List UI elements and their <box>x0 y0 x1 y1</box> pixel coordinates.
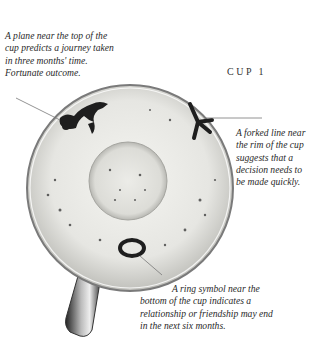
plane-annotation: A plane near the top of the cup predicts… <box>5 30 120 79</box>
cup-title: CUP 1 <box>227 66 266 77</box>
cup-base <box>89 142 167 220</box>
plane-leader-line <box>16 98 60 120</box>
forked-line-annotation: A forked line near the rim of the cup su… <box>236 127 310 188</box>
ring-annotation: A ring symbol near the bottom of the cup… <box>140 283 276 332</box>
